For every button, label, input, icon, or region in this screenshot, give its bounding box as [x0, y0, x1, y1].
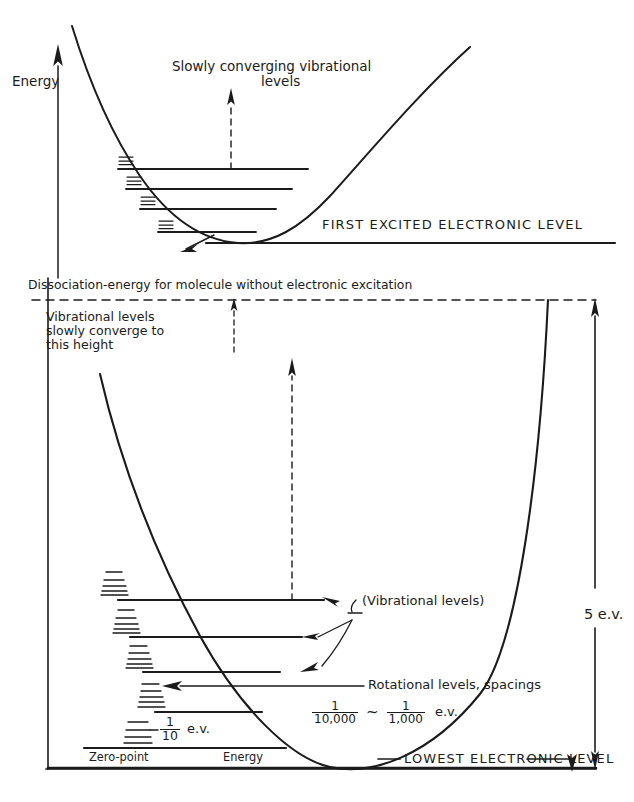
vibrational-spacing-fraction: 1 10 [160, 716, 180, 743]
vibrational-convergence-annotation: Vibrational levels slowly converge to th… [46, 310, 164, 352]
slowly-converging-line1: Slowly converging vibrational [172, 58, 371, 74]
vib-converge-line2: slowly converge to [46, 324, 164, 338]
fraction-numerator: 1 [160, 716, 180, 729]
vibrational-levels-arrowhead-lower [300, 662, 319, 672]
energy-axis-arrowhead [53, 44, 63, 66]
slowly-converging-annotation: Slowly converging vibrational levels [172, 59, 371, 89]
total-energy-gap-label: 5 e.v. [584, 606, 623, 622]
slowly-converging-line2: levels [172, 74, 371, 89]
approx-tilde: ~ [365, 704, 380, 721]
lower-convergence-arrowhead [288, 358, 296, 376]
zero-point-energy-label: Energy [223, 751, 263, 764]
vibrational-levels-arrowhead-mid [302, 633, 320, 640]
fraction-numerator: 1 [312, 700, 358, 712]
dissociation-energy-label: Dissociation-energy for molecule without… [28, 278, 412, 292]
vibrational-spacing-expression: 1 10 e.v. [160, 716, 210, 743]
zero-point-label: Zero-point [89, 751, 149, 764]
vib-converge-line1: Vibrational levels [46, 310, 164, 324]
five-ev-measure-up-arrowhead [591, 298, 599, 317]
fraction-numerator: 1 [387, 700, 425, 712]
vibrational-levels-label: (Vibrational levels) [362, 594, 484, 609]
rotational-spacing-expression: 1 10,000 ~ 1 1,000 e.v. [312, 700, 458, 725]
fraction-denominator: 10,000 [312, 712, 358, 725]
lower-potential-curve [100, 300, 548, 769]
fraction-denominator: 10 [160, 729, 180, 743]
lower-rotational-ticks [101, 572, 165, 743]
upper-convergence-arrowhead [227, 88, 235, 105]
fraction-denominator: 1,000 [387, 712, 425, 725]
vibrational-spacing-unit: e.v. [184, 721, 210, 736]
rotational-spacing-unit: e.v. [432, 705, 458, 720]
vibrational-levels-leader-upper [351, 600, 356, 612]
rotational-levels-label: Rotational levels, spacings [368, 678, 541, 693]
first-excited-leader-arrowhead [180, 244, 198, 252]
vib-converge-line3: this height [46, 338, 164, 352]
first-excited-level-label: FIRST EXCITED ELECTRONIC LEVEL [322, 218, 583, 233]
figure-canvas: Energy Slowly converging vibrational lev… [0, 0, 634, 802]
lowest-electronic-level-label: LOWEST ELECTRONIC LEVEL [404, 752, 614, 767]
rotational-levels-arrowhead [162, 681, 182, 691]
rotational-spacing-fraction-2: 1 1,000 [387, 700, 425, 725]
rotational-spacing-fraction-1: 1 10,000 [312, 700, 358, 725]
upper-rotational-ticks [119, 157, 173, 229]
vibrational-levels-arrowhead-upper [322, 597, 340, 607]
energy-axis-label: Energy [12, 74, 59, 89]
